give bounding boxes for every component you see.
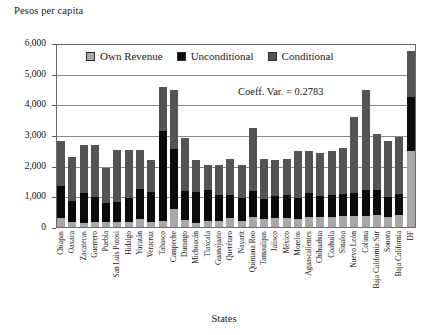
x-tick-label-text: Campeche bbox=[170, 231, 178, 262]
bar-segment-conditional bbox=[271, 160, 279, 197]
x-tick-label-text: Chiapas bbox=[57, 231, 65, 255]
bar-column[interactable] bbox=[80, 45, 88, 227]
bar-column[interactable] bbox=[283, 45, 291, 227]
bar-column[interactable] bbox=[226, 45, 234, 227]
bar-column[interactable] bbox=[316, 45, 324, 227]
x-tick-label: Oaxaca bbox=[68, 231, 76, 311]
x-tick-label: Chihuahua bbox=[316, 231, 324, 311]
bar-column[interactable] bbox=[395, 45, 403, 227]
bar-segment-own-revenue bbox=[328, 217, 336, 227]
legend-label-own-revenue: Own Revenue bbox=[100, 50, 163, 62]
bar-column[interactable] bbox=[328, 45, 336, 227]
y-tick-label: 4,000 bbox=[0, 100, 46, 110]
bar-segment-unconditional bbox=[260, 199, 268, 219]
y-tick-mark bbox=[52, 75, 56, 76]
x-tick-label-text: Morelos bbox=[294, 231, 302, 256]
bar-column[interactable] bbox=[204, 45, 212, 227]
bar-segment-conditional bbox=[226, 159, 234, 195]
bar-segment-unconditional bbox=[57, 186, 65, 218]
bar-column[interactable] bbox=[339, 45, 347, 227]
legend-label-unconditional: Unconditional bbox=[191, 50, 254, 62]
bar-column[interactable] bbox=[102, 45, 110, 227]
bar-column[interactable] bbox=[271, 45, 279, 227]
bar-segment-own-revenue bbox=[113, 222, 121, 227]
bar-segment-own-revenue bbox=[181, 220, 189, 227]
bar-column[interactable] bbox=[373, 45, 381, 227]
x-tick-label-text: Zacatecas bbox=[80, 231, 88, 260]
y-axis-title: Pesos per capita bbox=[14, 5, 83, 16]
x-tick-label-text: Baja California Sur bbox=[373, 231, 381, 288]
bar-segment-conditional bbox=[204, 165, 212, 190]
x-tick-label: Jalisco bbox=[271, 231, 279, 311]
bar-column[interactable] bbox=[159, 45, 167, 227]
bar-segment-unconditional bbox=[113, 202, 121, 222]
bar-column[interactable] bbox=[57, 45, 65, 227]
x-tick-label: DF bbox=[407, 231, 415, 311]
y-tick-label: 1,000 bbox=[0, 192, 46, 202]
bar-segment-conditional bbox=[384, 141, 392, 197]
bar-column[interactable] bbox=[294, 45, 302, 227]
bar-segment-conditional bbox=[181, 138, 189, 190]
legend-item-unconditional[interactable]: Unconditional bbox=[177, 50, 254, 62]
bar-column[interactable] bbox=[249, 45, 257, 227]
bar-column[interactable] bbox=[181, 45, 189, 227]
x-tick-label-text: Michoacán bbox=[192, 231, 200, 264]
bar-segment-own-revenue bbox=[305, 217, 313, 227]
x-tick-label: Hidalgo bbox=[125, 231, 133, 311]
x-tick-label: Querétaro bbox=[226, 231, 234, 311]
bar-segment-unconditional bbox=[339, 194, 347, 217]
bar-segment-unconditional bbox=[159, 131, 167, 220]
bar-segment-conditional bbox=[238, 165, 246, 198]
x-tick-label: Tamaulipas bbox=[260, 231, 268, 311]
legend-item-conditional[interactable]: Conditional bbox=[268, 50, 334, 62]
bar-segment-own-revenue bbox=[384, 217, 392, 227]
legend-item-own-revenue[interactable]: Own Revenue bbox=[86, 50, 163, 62]
x-tick-label: Tlaxcala bbox=[204, 231, 212, 311]
bar-segment-conditional bbox=[91, 145, 99, 197]
x-tick-label: Durango bbox=[181, 231, 189, 311]
bar-column[interactable] bbox=[215, 45, 223, 227]
bar-column[interactable] bbox=[407, 45, 415, 227]
bar-segment-own-revenue bbox=[271, 218, 279, 227]
x-tick-label-text: Durango bbox=[181, 231, 189, 257]
bar-column[interactable] bbox=[136, 45, 144, 227]
bar-segment-unconditional bbox=[68, 201, 76, 222]
bar-segment-conditional bbox=[362, 90, 370, 190]
x-tick-label: Sonora bbox=[384, 231, 392, 311]
bar-column[interactable] bbox=[350, 45, 358, 227]
y-tick-label: 6,000 bbox=[0, 39, 46, 49]
bar-segment-unconditional bbox=[305, 193, 313, 217]
bar-segment-conditional bbox=[395, 137, 403, 194]
bar-series-group bbox=[57, 45, 415, 227]
bar-segment-conditional bbox=[147, 160, 155, 192]
bar-segment-unconditional bbox=[215, 195, 223, 221]
x-tick-label: Quintana Roo bbox=[249, 231, 257, 311]
bar-column[interactable] bbox=[384, 45, 392, 227]
bar-column[interactable] bbox=[68, 45, 76, 227]
bar-column[interactable] bbox=[147, 45, 155, 227]
bar-column[interactable] bbox=[238, 45, 246, 227]
x-tick-label: Baja California Sur bbox=[373, 231, 381, 311]
bar-column[interactable] bbox=[192, 45, 200, 227]
bar-segment-own-revenue bbox=[407, 151, 415, 227]
bar-column[interactable] bbox=[91, 45, 99, 227]
x-tick-label: Veracruz bbox=[147, 231, 155, 311]
bar-column[interactable] bbox=[260, 45, 268, 227]
bar-segment-conditional bbox=[113, 150, 121, 202]
bar-column[interactable] bbox=[170, 45, 178, 227]
bar-segment-conditional bbox=[283, 159, 291, 195]
x-tick-label-text: Guanajuato bbox=[215, 231, 223, 265]
x-axis-tick-labels: ChiapasOaxacaZacatecasGuerreroPueblaSan … bbox=[57, 231, 415, 311]
bar-column[interactable] bbox=[305, 45, 313, 227]
x-tick-label: Colima bbox=[362, 231, 370, 311]
bar-segment-conditional bbox=[192, 160, 200, 192]
bar-column[interactable] bbox=[113, 45, 121, 227]
bar-column[interactable] bbox=[362, 45, 370, 227]
bar-column[interactable] bbox=[125, 45, 133, 227]
x-tick-label-text: Nuevo León bbox=[350, 231, 358, 268]
bar-segment-own-revenue bbox=[125, 222, 133, 227]
bar-segment-unconditional bbox=[271, 196, 279, 218]
bar-segment-unconditional bbox=[80, 193, 88, 223]
bar-segment-unconditional bbox=[283, 195, 291, 217]
bar-segment-conditional bbox=[294, 151, 302, 198]
